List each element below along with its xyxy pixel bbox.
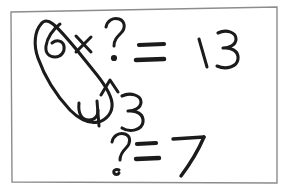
result-digit-1-stroke	[199, 39, 207, 67]
question-mark-bottom-hook	[112, 133, 130, 160]
question-mark-top-hook	[106, 18, 124, 46]
equals-bottom-bar-upper	[137, 143, 156, 144]
digit-3-stroke	[122, 94, 143, 130]
answer-digit-7-top-stroke	[173, 137, 204, 139]
scanned-worksheet-page: 6 + ? = 13 4 3 ? = 7	[0, 0, 291, 195]
digit-4-stem-stroke	[97, 101, 99, 126]
equals-top-bar-lower	[136, 59, 164, 60]
hand-drawn-oval-annotation	[35, 21, 112, 122]
result-digit-3-stroke	[217, 31, 238, 68]
equals-top-bar-upper	[139, 44, 164, 45]
equals-bottom-bar-lower	[136, 158, 159, 159]
answer-digit-7-diagonal-stroke	[181, 137, 204, 176]
question-mark-top-dot	[111, 55, 117, 61]
digit-4-bowl-stroke	[79, 103, 98, 120]
question-mark-bottom-dot	[114, 170, 119, 175]
handwriting-ink-layer	[0, 0, 291, 195]
digit-6-stroke	[46, 24, 64, 57]
